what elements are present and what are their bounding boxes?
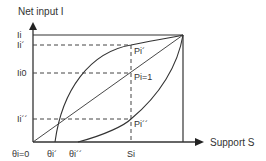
y-label-ii0: Ii0 (17, 68, 27, 78)
x-label-si: Si (127, 149, 135, 159)
point-label-pi-one: Pi=1 (134, 72, 152, 82)
y-axis-title: Net input I (18, 6, 64, 17)
point-label-pi-double-prime: Pi´´ (134, 119, 148, 129)
concave-curve (55, 35, 183, 142)
y-axis-arrow-icon (29, 22, 37, 30)
point-label-pi-prime: Pi´ (134, 46, 145, 56)
x-label-theta-double-prime: θi´´ (69, 149, 82, 159)
y-label-ii-double-prime: Ii´´ (17, 114, 28, 124)
x-axis-arrow-icon (195, 138, 204, 146)
net-input-support-diagram: Net input I Support S Ii Ii´ Ii0 Ii´´ θi… (0, 0, 266, 161)
y-label-ii-prime: Ii´ (17, 40, 25, 50)
x-label-theta-prime: θi´ (47, 149, 57, 159)
x-axis-title: Support S (210, 137, 255, 148)
x-label-origin: θi=0 (12, 149, 29, 159)
y-label-ii: Ii (17, 30, 22, 40)
